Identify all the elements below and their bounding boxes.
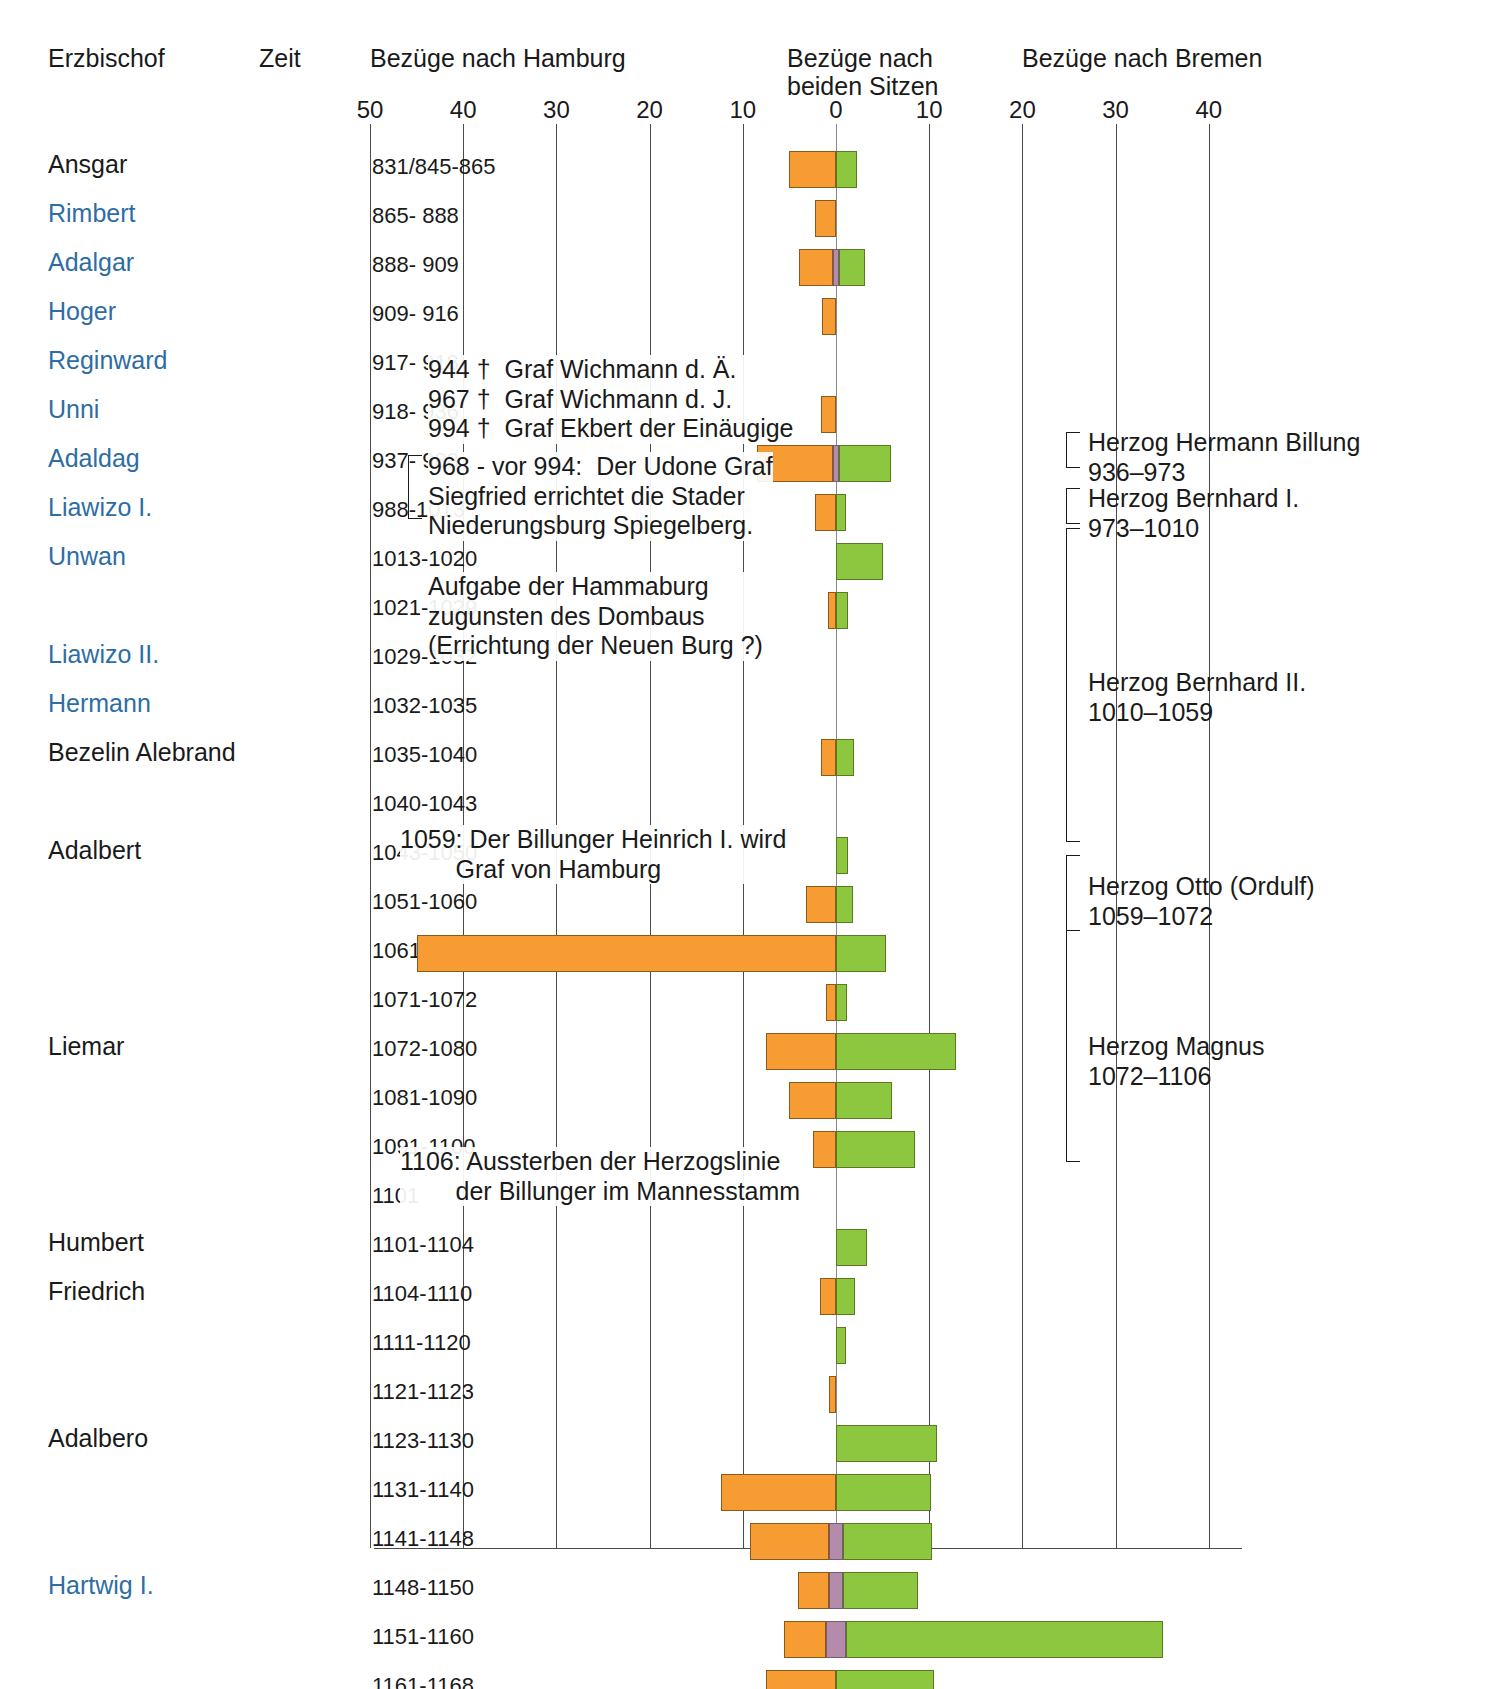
bar-hamburg bbox=[826, 984, 836, 1021]
bar-hamburg bbox=[784, 1621, 826, 1658]
bar-both-seats bbox=[829, 1572, 843, 1609]
bar-bremen bbox=[836, 543, 883, 580]
bishop-name: Rimbert bbox=[48, 199, 136, 228]
duke-bracket-hermann-billung-icon bbox=[1066, 432, 1080, 468]
bishop-name: Unni bbox=[48, 395, 99, 424]
bar-hamburg bbox=[750, 1523, 829, 1560]
bar-bremen bbox=[836, 886, 853, 923]
annotation-billunger: 1059: Der Billunger Heinrich I. wird Gra… bbox=[400, 825, 786, 884]
duke-label-bernhard-ii: Herzog Bernhard II.1010–1059 bbox=[1088, 668, 1306, 727]
bar-hamburg bbox=[822, 298, 836, 335]
bar-hamburg bbox=[789, 151, 836, 188]
bar-bremen bbox=[836, 1474, 931, 1511]
duke-bracket-magnus-icon bbox=[1066, 930, 1080, 1162]
bar-bremen bbox=[836, 837, 848, 874]
bar-hamburg bbox=[799, 249, 833, 286]
bar-hamburg bbox=[828, 592, 836, 629]
bar-bremen bbox=[836, 1670, 934, 1689]
chart-row: Liemar1072-1080 bbox=[0, 1028, 1490, 1077]
bishop-name: Friedrich bbox=[48, 1277, 145, 1306]
duke-bracket-bernhard-ii-icon bbox=[1066, 528, 1080, 842]
chart-row: 1121-1123 bbox=[0, 1371, 1490, 1420]
chart-row: 1061-1070 bbox=[0, 930, 1490, 979]
duke-years: 936–973 bbox=[1088, 458, 1185, 486]
bishop-name: Humbert bbox=[48, 1228, 144, 1257]
chart-row: Bezelin Alebrand1035-1040 bbox=[0, 734, 1490, 783]
chart-row: Adalbero1123-1130 bbox=[0, 1420, 1490, 1469]
chart-row: Hartwig I.1148-1150 bbox=[0, 1567, 1490, 1616]
bar-hamburg bbox=[789, 1082, 836, 1119]
chart-page: Erzbischof Zeit Bezüge nach Hamburg Bezü… bbox=[0, 0, 1490, 1689]
bishop-name: Adalbert bbox=[48, 836, 141, 865]
bishop-name: Hoger bbox=[48, 297, 116, 326]
chart-row: Friedrich1104-1110 bbox=[0, 1273, 1490, 1322]
duke-label-hermann-billung: Herzog Hermann Billung936–973 bbox=[1088, 428, 1360, 487]
duke-bracket-bernhard-i-icon bbox=[1066, 488, 1080, 524]
brace-udone-icon bbox=[408, 455, 422, 519]
bishop-name: Hartwig I. bbox=[48, 1571, 154, 1600]
duke-name: Herzog Bernhard II. bbox=[1088, 668, 1306, 696]
bar-hamburg bbox=[821, 739, 836, 776]
annotation-udone: 968 - vor 994: Der Udone Graf Siegfried … bbox=[428, 452, 773, 541]
bar-hamburg bbox=[721, 1474, 836, 1511]
chart-row: 1141-1148 bbox=[0, 1518, 1490, 1567]
bar-bremen bbox=[836, 984, 847, 1021]
bar-hamburg bbox=[813, 1131, 836, 1168]
bar-hamburg bbox=[806, 886, 836, 923]
chart-row: Humbert1101-1104 bbox=[0, 1224, 1490, 1273]
bar-both-seats bbox=[829, 1523, 843, 1560]
bar-hamburg bbox=[815, 200, 836, 237]
chart-row: 1151-1160 bbox=[0, 1616, 1490, 1665]
bar-bremen bbox=[836, 1327, 846, 1364]
duke-years: 1072–1106 bbox=[1088, 1062, 1211, 1090]
chart-row: Ansgar831/845-865 bbox=[0, 146, 1490, 195]
bar-hamburg bbox=[815, 494, 836, 531]
annotation-aussterben: 1106: Aussterben der Herzogslinie der Bi… bbox=[400, 1147, 800, 1206]
chart-row: Hoger909- 916 bbox=[0, 293, 1490, 342]
bar-bremen bbox=[836, 1278, 855, 1315]
chart-row: Rimbert865- 888 bbox=[0, 195, 1490, 244]
bar-bremen bbox=[836, 1425, 937, 1462]
chart-row: Adalgar888- 909 bbox=[0, 244, 1490, 293]
bar-bremen bbox=[836, 935, 886, 972]
bar-hamburg bbox=[798, 1572, 829, 1609]
duke-years: 1010–1059 bbox=[1088, 698, 1213, 726]
bar-bremen bbox=[839, 445, 891, 482]
duke-label-otto-ordulf: Herzog Otto (Ordulf)1059–1072 bbox=[1088, 872, 1314, 931]
duke-bracket-otto-ordulf-icon bbox=[1066, 855, 1080, 931]
bishop-name: Liawizo II. bbox=[48, 640, 159, 669]
duke-name: Herzog Bernhard I. bbox=[1088, 484, 1299, 512]
bar-bremen bbox=[836, 151, 857, 188]
bishop-name: Adalgar bbox=[48, 248, 134, 277]
bishop-name: Liemar bbox=[48, 1032, 124, 1061]
bar-bremen bbox=[836, 494, 846, 531]
bar-bremen bbox=[843, 1572, 918, 1609]
bar-both-seats bbox=[826, 1621, 847, 1658]
bishop-name: Ansgar bbox=[48, 150, 127, 179]
bar-hamburg bbox=[417, 935, 836, 972]
bar-bremen bbox=[843, 1523, 932, 1560]
duke-years: 973–1010 bbox=[1088, 514, 1199, 542]
bar-hamburg bbox=[829, 1376, 836, 1413]
chart-row: 1111-1120 bbox=[0, 1322, 1490, 1371]
bishop-name: Adaldag bbox=[48, 444, 140, 473]
chart-row: 1131-1140 bbox=[0, 1469, 1490, 1518]
bishop-name: Hermann bbox=[48, 689, 151, 718]
bishop-name: Unwan bbox=[48, 542, 126, 571]
bar-hamburg bbox=[766, 1670, 836, 1689]
bishop-name: Adalbero bbox=[48, 1424, 148, 1453]
bar-bremen bbox=[836, 1033, 956, 1070]
duke-name: Herzog Otto (Ordulf) bbox=[1088, 872, 1314, 900]
annotation-hammaburg: Aufgabe der Hammaburg zugunsten des Domb… bbox=[428, 572, 763, 661]
chart-row: 1161-1168 bbox=[0, 1665, 1490, 1689]
duke-label-bernhard-i: Herzog Bernhard I.973–1010 bbox=[1088, 484, 1299, 543]
bar-bremen bbox=[839, 249, 865, 286]
duke-name: Herzog Hermann Billung bbox=[1088, 428, 1360, 456]
bar-bremen bbox=[836, 1229, 867, 1266]
bar-bremen bbox=[846, 1621, 1163, 1658]
bar-bremen bbox=[836, 592, 848, 629]
chart-row: 1071-1072 bbox=[0, 979, 1490, 1028]
bar-hamburg bbox=[821, 396, 836, 433]
bar-hamburg bbox=[820, 1278, 836, 1315]
bar-bremen bbox=[836, 1131, 915, 1168]
